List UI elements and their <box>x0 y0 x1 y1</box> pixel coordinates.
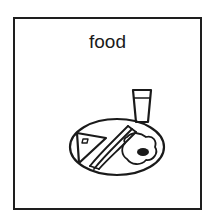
plate-icon <box>70 119 164 175</box>
breakfast-plate-icon <box>15 19 200 208</box>
pictogram-card: food <box>13 17 202 210</box>
glass-icon <box>133 90 151 122</box>
sandwich-icon <box>77 133 106 163</box>
fried-egg-icon <box>122 133 156 164</box>
